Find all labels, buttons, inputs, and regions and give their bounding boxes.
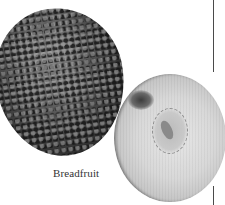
figure: Breadfruit	[0, 0, 225, 205]
column-divider-bottom	[213, 186, 214, 205]
stem-end	[128, 90, 154, 110]
figure-caption: Breadfruit	[53, 167, 99, 179]
column-divider-top	[213, 0, 214, 72]
